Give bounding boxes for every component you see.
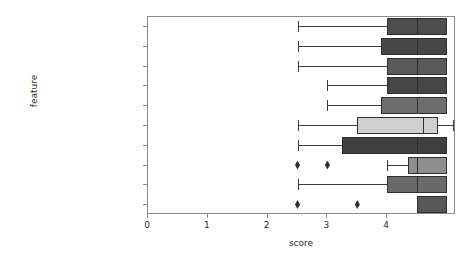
median-line [423,117,424,134]
whisker-low-line [298,145,343,146]
x-tick-label: 2 [255,220,279,230]
whisker-low-line [298,26,388,27]
box-row [148,17,454,37]
x-tick-mark [267,214,268,218]
box-row [148,116,454,136]
box-row [148,96,454,116]
whisker-low-cap [327,100,328,111]
box-row [148,156,454,176]
median-line [417,176,418,193]
y-axis-label: feature [29,51,39,131]
x-tick-label: 4 [374,220,398,230]
outlier-marker [295,200,300,209]
box-rect [357,117,438,134]
boxplot-figure: feature Data SecurityLab Instrument Inte… [0,0,467,261]
median-line [417,97,418,114]
box-row [148,76,454,96]
whisker-low-cap [298,21,299,32]
whisker-low-cap [327,80,328,91]
median-line [417,77,418,94]
box-rect [417,196,447,213]
whisker-low-line [298,125,358,126]
box-rect [381,38,447,55]
median-line [417,157,418,174]
median-line [417,38,418,55]
box-rect [342,137,447,154]
box-row [148,195,454,214]
whisker-low-line [387,165,408,166]
box-row [148,175,454,195]
whisker-low-cap [298,120,299,131]
whisker-low-line [298,46,382,47]
outlier-marker [325,161,330,170]
box-rect [381,97,447,114]
x-tick-mark [147,214,148,218]
x-tick-label: 0 [135,220,159,230]
box-row [148,37,454,57]
whisker-low-line [298,66,388,67]
whisker-low-line [327,105,381,106]
whisker-low-line [298,184,388,185]
x-tick-mark [326,214,327,218]
x-tick-label: 3 [314,220,338,230]
whisker-low-cap [298,179,299,190]
median-line [417,58,418,75]
median-line [417,18,418,35]
whisker-low-cap [298,41,299,52]
plot-area [147,16,455,214]
box-rect [408,157,447,174]
box-row [148,57,454,77]
median-line [417,137,418,154]
outlier-marker [295,161,300,170]
box-row [148,136,454,156]
whisker-high-cap [453,120,454,131]
whisker-low-cap [387,160,388,171]
x-tick-mark [207,214,208,218]
x-axis-label: score [147,238,455,248]
whisker-low-cap [298,140,299,151]
whisker-low-line [327,85,387,86]
whisker-low-cap [298,61,299,72]
whisker-high-line [438,125,453,126]
x-tick-label: 1 [195,220,219,230]
outlier-marker [355,200,360,209]
x-tick-mark [386,214,387,218]
